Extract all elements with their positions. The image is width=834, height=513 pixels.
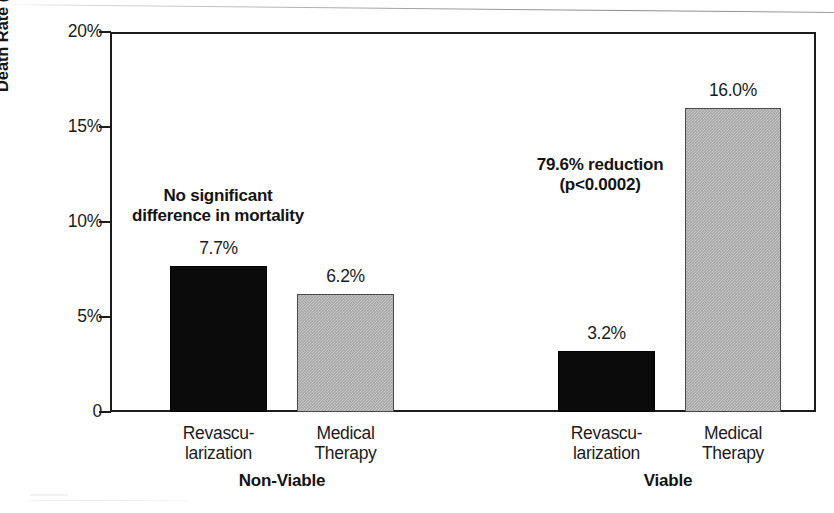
category-label-medical-therapy: Medical Therapy: [653, 423, 813, 464]
y-tick-label-20pct: 20%: [38, 23, 102, 41]
scan-artifact-top-line: [0, 4, 834, 13]
bar-value-label: 6.2%: [267, 268, 424, 286]
bar-non-viable-medical-therapy: [297, 294, 394, 412]
category-label-medical-therapy: Medical Therapy: [265, 423, 426, 464]
bar-value-label: 7.7%: [140, 240, 297, 258]
y-tick-label-0: 0: [38, 403, 102, 421]
bar-viable-revascularization: [558, 351, 655, 412]
y-axis-title: Death Rate (percent per year): [0, 0, 21, 92]
group-label-viable: Viable: [518, 472, 818, 489]
group-label-non-viable: Non-Viable: [132, 472, 432, 489]
annotation-non-viable: No significant difference in mortality: [48, 186, 388, 226]
y-tick-label-5pct: 5%: [38, 308, 102, 326]
y-axis-title-container: Death Rate (percent per year): [2, 52, 32, 392]
bar-value-label: 3.2%: [528, 325, 685, 343]
bar-non-viable-revascularization: [170, 266, 267, 412]
y-axis-tick-labels: 05%10%15%20%: [30, 0, 102, 513]
y-tick-label-15pct: 15%: [38, 118, 102, 136]
figure-bar-chart: Death Rate (percent per year) 05%10%15%2…: [0, 0, 834, 513]
bar-viable-medical-therapy: [685, 108, 781, 412]
bar-value-label: 16.0%: [655, 82, 811, 100]
annotation-viable: 79.6% reduction (p<0.0002): [430, 155, 770, 195]
